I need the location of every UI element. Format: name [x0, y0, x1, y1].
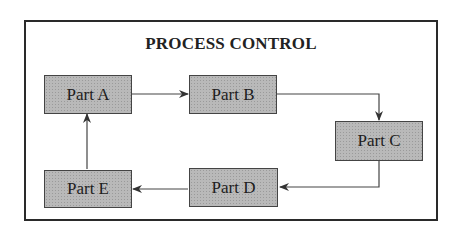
node-part-d: Part D: [189, 168, 278, 207]
node-part-c: Part C: [335, 121, 423, 161]
node-part-a: Part A: [44, 75, 132, 114]
node-part-b: Part B: [189, 75, 277, 114]
arrow-c-to-d: [280, 161, 379, 187]
arrow-b-to-c: [277, 94, 379, 120]
node-part-e: Part E: [44, 170, 132, 208]
